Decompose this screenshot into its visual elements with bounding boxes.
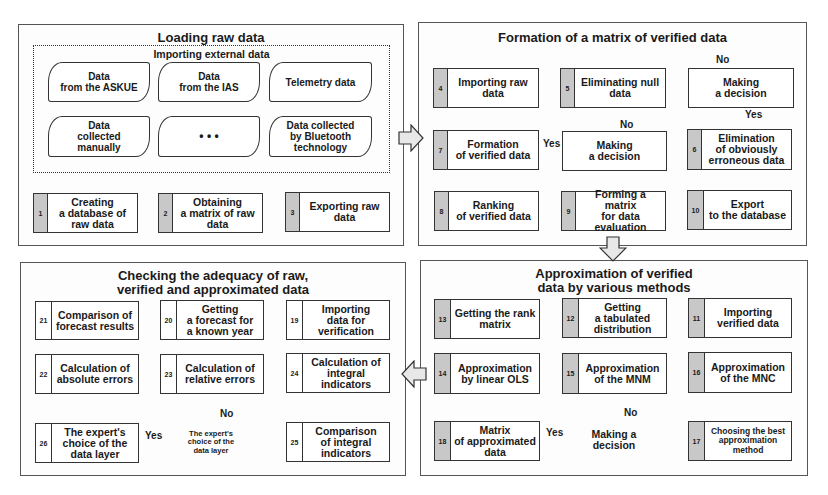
panel-title: Formation of a matrix of verified data [419,31,806,45]
step-6: 6 Elimination of obviously erroneous dat… [687,129,792,170]
step-24: 24 Calculation of integral indicators [286,353,390,393]
step-label: Comparison of integral indicators [303,423,389,461]
step-15: 15 Approximation of the MNM [562,353,667,394]
step-label: Comparison of forecast results [52,302,138,339]
step-4: 4 Importing raw data [433,68,539,108]
yes-label: Yes [145,430,162,441]
step-label: Calculation of absolute errors [52,355,138,393]
step-7: 7 Formation of verified data [433,130,539,170]
step-label: Approximation of the MNC [705,353,791,392]
step-2: 2 Obtaining a matrix of raw data [158,193,263,233]
no-label-1: No [716,54,729,65]
decision-label: Making a decision [575,428,653,452]
step-number: 9 [562,192,576,230]
step-number: 12 [563,299,579,337]
step-label: Creating a database of raw data [48,194,137,232]
step-label: Export to the database [704,191,791,229]
step-16: 16 Approximation of the MNC [688,352,792,393]
step-number: 22 [36,355,52,393]
step-label: Importing verified data [705,299,791,337]
step-label: Forming a matrix for data evaluation [576,192,665,230]
step-number: 26 [36,424,52,462]
decision-label: The expert's choice of the data layer [180,429,242,456]
step-number: 23 [161,355,177,393]
step-11: 11 Importing verified data [688,298,792,338]
step-number: 4 [434,69,448,107]
step-number: 10 [688,191,704,229]
no-label: No [624,407,637,418]
step-21: 21 Comparison of forecast results [35,301,139,340]
step-label: The expert's choice of the data layer [52,424,138,462]
step-number: 20 [161,301,177,339]
no-label: No [220,408,233,419]
block-arrow-left-icon [401,360,427,388]
source-telemetry: Telemetry data [269,62,372,102]
step-label: Approximation by linear OLS [451,354,539,393]
step-label: Eliminating null data [575,69,665,107]
panel-title: Checking the adequacy of raw, verified a… [21,269,405,297]
step-23: 23 Calculation of relative errors [160,354,264,394]
step-25: 25 Comparison of integral indicators [286,422,390,462]
step-label: Calculation of relative errors [177,355,263,393]
decision-2: Making a decision [562,131,667,171]
step-number: 18 [435,422,451,460]
step-number: 17 [689,422,705,460]
step-9: 9 Forming a matrix for data evaluation [561,191,666,231]
step-22: 22 Calculation of absolute errors [35,354,139,394]
step-label: Formation of verified data [448,131,538,169]
step-number: 3 [286,193,300,231]
step-number: 2 [159,194,173,232]
step-label: Ranking of verified data [449,192,538,230]
step-number: 5 [561,69,575,107]
step-10: 10 Export to the database [687,190,792,230]
decision-1: Making a decision [688,68,794,108]
step-number: 11 [689,299,705,337]
step-label: Calculation of integral indicators [303,354,389,392]
step-number: 14 [435,354,451,393]
step-18: 18 Matrix of approximated data [434,421,540,461]
step-label: Getting a forecast for a known year [177,301,263,339]
step-number: 6 [688,130,702,169]
panel-title: Approximation of verified data by variou… [421,267,807,295]
panel-title: Loading raw data [19,31,403,45]
step-label: Choosing the best approximation method [705,422,791,460]
step-label: Importing data for verification [303,301,389,339]
step-label: Getting the rank matrix [451,300,539,338]
step-14: 14 Approximation by linear OLS [434,353,540,394]
step-number: 19 [287,301,303,339]
step-19: 19 Importing data for verification [286,300,390,340]
yes-label-2: Yes [543,138,560,149]
source-bluetooth: Data collected by Bluetooth technology [269,116,372,157]
step-number: 7 [434,131,448,169]
step-3: 3 Exporting raw data [285,192,390,232]
step-number: 16 [689,353,705,392]
step-number: 25 [287,423,303,461]
step-number: 24 [287,354,303,392]
step-1: 1 Creating a database of raw data [33,193,138,233]
step-label: Elimination of obviously erroneous data [702,130,791,169]
step-label: Getting a tabulated distribution [579,299,666,337]
step-label: Exporting raw data [300,193,389,231]
step-label: Obtaining a matrix of raw data [173,194,262,232]
source-manual: Data collected manually [48,116,150,157]
step-20: 20 Getting a forecast for a known year [160,300,264,340]
yes-label: Yes [546,427,563,438]
step-label: Matrix of approximated data [451,422,539,460]
step-5: 5 Eliminating null data [560,68,666,108]
yes-label-1: Yes [745,109,762,120]
step-number: 21 [36,302,52,339]
source-ellipsis: • • • [158,116,260,157]
source-askue: Data from the ASKUE [48,62,150,102]
step-label: Importing raw data [448,69,538,107]
step-8: 8 Ranking of verified data [434,191,539,231]
step-26: 26 The expert's choice of the data layer [35,423,139,463]
step-number: 8 [435,192,449,230]
block-arrow-down-icon [599,236,627,262]
group-title: Importing external data [34,48,389,60]
step-12: 12 Getting a tabulated distribution [562,298,667,338]
step-number: 15 [563,354,579,393]
step-number: 13 [435,300,451,338]
step-number: 1 [34,194,48,232]
step-13: 13 Getting the rank matrix [434,299,540,339]
source-ias: Data from the IAS [158,62,260,102]
